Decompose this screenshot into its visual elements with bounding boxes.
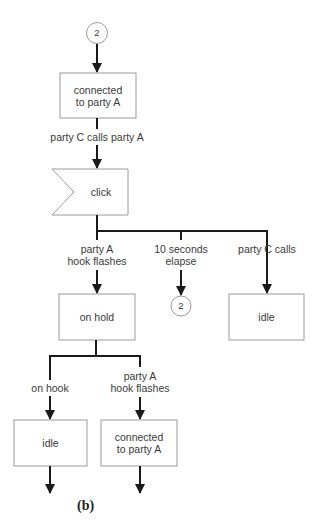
transition-label-ten-seconds: 10 seconds elapse: [141, 243, 221, 267]
transition-label-c-calls: party C calls: [227, 243, 307, 255]
state-label-idle-right: idle: [229, 294, 304, 340]
state-label-click: click: [74, 169, 128, 215]
connector-label-top: 2: [87, 27, 107, 39]
transition-label-c-calls-a: party C calls party A: [37, 131, 157, 143]
state-label-on-hold: on hold: [59, 294, 135, 340]
transition-label-on-hook: on hook: [20, 382, 80, 394]
state-label-connected-top: connected to party A: [60, 73, 136, 118]
transition-label-a-hook-flashes-2: party A hook flashes: [100, 370, 180, 394]
figure-caption: (b): [77, 498, 94, 514]
state-label-connected-bottom: connected to party A: [101, 420, 177, 466]
state-label-idle-bottom: idle: [14, 420, 87, 466]
transition-label-a-hook-flashes-1: party A hook flashes: [57, 243, 137, 267]
connector-label-mid: 2: [171, 300, 191, 312]
